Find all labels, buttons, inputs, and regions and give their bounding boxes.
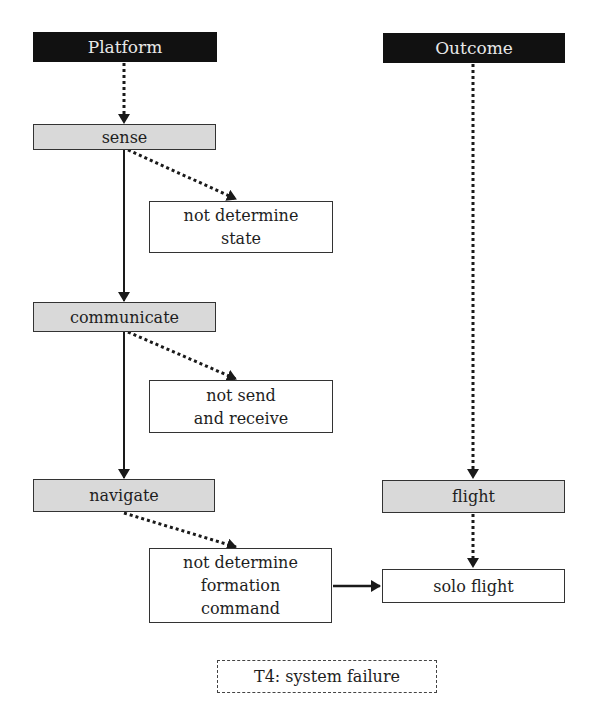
platform-header: Platform (33, 32, 217, 62)
navigate-label: navigate (89, 486, 159, 505)
outcome-header-label: Outcome (435, 38, 513, 58)
edge-communicate-not-send-receive (128, 332, 236, 379)
not-determine-state-node: not determine state (149, 201, 333, 253)
solo-flight-label: solo flight (433, 575, 513, 598)
communicate-label: communicate (70, 308, 179, 327)
legend-box: T4: system failure (217, 660, 437, 693)
flight-node: flight (382, 480, 565, 513)
legend-label: T4: system failure (254, 667, 400, 686)
platform-header-label: Platform (88, 37, 163, 57)
flight-label: flight (452, 487, 495, 506)
not-send-receive-node: not send and receive (149, 380, 333, 433)
outcome-header: Outcome (383, 33, 565, 63)
not-send-receive-label: not send and receive (194, 384, 288, 430)
navigate-node: navigate (33, 479, 215, 512)
not-determine-formation-label: not determine formation command (183, 551, 298, 620)
not-determine-formation-node: not determine formation command (149, 548, 332, 623)
sense-node: sense (33, 124, 216, 150)
communicate-node: communicate (33, 302, 216, 332)
not-determine-state-label: not determine state (184, 204, 299, 250)
edge-sense-not-determine-state (128, 150, 236, 199)
sense-label: sense (102, 128, 148, 147)
diagram-canvas: Platform Outcome sense not determine sta… (0, 0, 593, 723)
edge-navigate-not-determine-formation (124, 513, 236, 547)
solo-flight-node: solo flight (382, 569, 565, 603)
